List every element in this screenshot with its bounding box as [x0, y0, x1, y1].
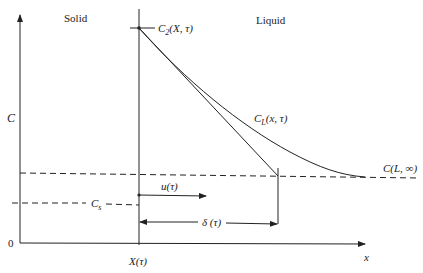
liquid-profile-label: CL(x, τ): [254, 112, 288, 127]
y-axis-label: C: [7, 111, 16, 125]
boundary-layer-label: δ (τ): [202, 216, 221, 229]
velocity-arrow: [139, 195, 206, 196]
interface-position-label: X(τ): [128, 255, 147, 268]
velocity-label: u(τ): [161, 180, 178, 193]
solid-conc-dashed-line-right: [106, 204, 139, 205]
origin-label: 0: [8, 237, 14, 249]
solid-region-label: Solid: [64, 12, 88, 24]
x-axis-label: x: [363, 251, 369, 263]
liquid-region-label: Liquid: [256, 14, 286, 26]
liquid-profile-curve: [139, 28, 365, 177]
solidification-diagram: Solid Liquid C x 0 X(τ) C2(X, τ) CL(x, τ…: [0, 0, 423, 273]
far-field-label: C(L, ∞): [383, 162, 417, 175]
solid-conc-label: Cs: [91, 197, 101, 212]
far-field-dashed-line: [20, 173, 420, 178]
interface-conc-label: C2(X, τ): [158, 22, 193, 37]
x-axis: [20, 243, 365, 244]
boundary-layer-arrow-right: [226, 223, 277, 224]
